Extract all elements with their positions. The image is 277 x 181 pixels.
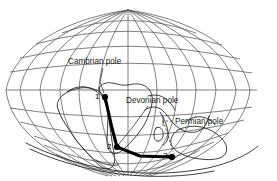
point-number-2: 2 bbox=[107, 142, 111, 151]
polar-wander-figure: Cambrian pole Devonian pole Permian pole… bbox=[0, 0, 277, 181]
meridian-120E bbox=[128, 10, 216, 176]
pole-marker-2[interactable] bbox=[114, 144, 120, 150]
pole-marker-3[interactable] bbox=[169, 154, 175, 160]
meridian-90E bbox=[128, 10, 196, 176]
parallel-60N bbox=[36, 31, 222, 45]
meridian-180E bbox=[128, 10, 250, 176]
leader-line-cambrian bbox=[100, 68, 104, 93]
point-number-1: 1 bbox=[95, 92, 99, 101]
label-devonian-pole: Devonian pole bbox=[126, 96, 178, 105]
meridian-30E bbox=[128, 10, 157, 176]
meridian-150E bbox=[128, 10, 236, 176]
label-cambrian-pole: Cambrian pole bbox=[68, 57, 121, 66]
meridian-120W bbox=[40, 10, 128, 176]
point-number-3: 3 bbox=[163, 151, 167, 160]
world-map-graticule bbox=[0, 0, 277, 181]
meridian-150W bbox=[20, 10, 128, 176]
meridian-60E bbox=[128, 10, 177, 176]
coastline-antarctica bbox=[26, 143, 258, 173]
label-permian-pole: Permian pole bbox=[175, 117, 223, 126]
pole-marker-1[interactable] bbox=[102, 94, 108, 100]
